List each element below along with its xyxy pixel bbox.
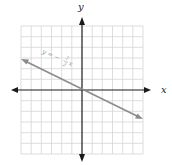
y-axis-down-arrow-icon: [79, 154, 85, 162]
y-axis-label: y: [77, 1, 84, 12]
y-axis-up-arrow-icon: [79, 17, 85, 25]
line-left-arrow-icon: [21, 59, 29, 65]
x-axis-left-arrow-icon: [11, 87, 18, 93]
coordinate-plane: x y y = − 1 2 x: [0, 0, 172, 165]
equation-lhs: y = −: [40, 47, 61, 62]
line-equation: y = − 1 2 x: [39, 44, 75, 70]
line-right-arrow-icon: [135, 114, 143, 120]
equation-variable: x: [67, 59, 74, 68]
x-axis-label: x: [161, 84, 167, 95]
x-axis-right-arrow-icon: [144, 87, 151, 93]
